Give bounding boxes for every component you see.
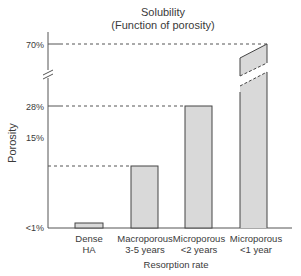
category-label-4-line1: Microporous xyxy=(230,233,283,244)
ytick-label-1: <1% xyxy=(26,223,44,233)
bar-microporous-1yr-lower xyxy=(240,72,267,228)
chart-title-line2: (Function of porosity) xyxy=(111,19,214,31)
category-label-4-line2: <1 year xyxy=(240,244,272,255)
category-label-2-line2: 3-5 years xyxy=(125,244,165,255)
category-label-1-line2: HA xyxy=(82,244,96,255)
porosity-chart: Solubility (Function of porosity) 70% 28… xyxy=(0,0,301,276)
ytick-label-15: 15% xyxy=(26,133,44,143)
y-axis-label: Porosity xyxy=(6,123,18,163)
bar-microporous-2yr xyxy=(185,106,212,228)
chart-title-line1: Solubility xyxy=(141,6,186,18)
category-label-2-line1: Macroporous xyxy=(117,233,173,244)
category-label-3-line2: <2 years xyxy=(181,244,218,255)
bar-microporous-1yr-upper xyxy=(240,44,267,76)
ytick-label-28: 28% xyxy=(26,102,44,112)
x-axis-label: Resorption rate xyxy=(144,259,209,270)
ytick-label-70: 70% xyxy=(26,40,44,50)
category-label-1-line1: Dense xyxy=(75,233,102,244)
bar-dense-ha xyxy=(75,223,103,228)
bar-macroporous xyxy=(131,166,158,228)
category-label-3-line1: Microporous xyxy=(173,233,226,244)
